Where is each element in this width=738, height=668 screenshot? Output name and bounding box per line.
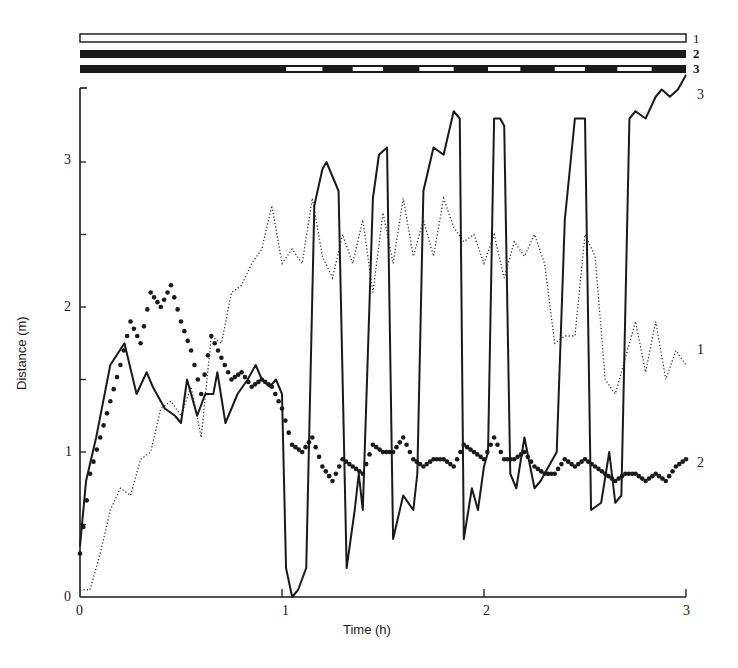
bar-label-1: 1 xyxy=(693,31,700,47)
condition-bar-3-gap xyxy=(617,67,651,71)
series-1-line xyxy=(80,198,686,590)
bar-label-3: 3 xyxy=(693,61,700,77)
bar-label-2: 2 xyxy=(693,46,700,62)
x-axis-label: Time (h) xyxy=(343,622,391,637)
condition-bar-1 xyxy=(80,34,686,42)
condition-bars xyxy=(80,34,686,73)
condition-bar-3-gap xyxy=(419,67,453,71)
y-tick-2: 2 xyxy=(64,299,71,315)
x-tick-1: 1 xyxy=(282,603,289,619)
x-tick-2: 2 xyxy=(483,603,490,619)
axes xyxy=(80,88,686,597)
condition-bar-3-gap xyxy=(286,67,322,71)
series-3-line xyxy=(80,75,686,597)
y-axis-label: Distance (m) xyxy=(14,316,29,390)
y-tick-3: 3 xyxy=(64,152,71,168)
series-label-2: 2 xyxy=(697,455,704,471)
y-tick-1: 1 xyxy=(65,444,72,460)
condition-bar-3-gap xyxy=(555,67,585,71)
series-label-1: 1 xyxy=(697,342,704,358)
series-label-3: 3 xyxy=(697,87,704,103)
x-tick-0: 0 xyxy=(76,603,83,619)
condition-bar-2 xyxy=(80,50,686,58)
condition-bar-3-gap xyxy=(488,67,520,71)
x-tick-3: 3 xyxy=(683,603,690,619)
series-group xyxy=(78,75,689,597)
y-tick-0: 0 xyxy=(64,589,71,605)
chart-canvas xyxy=(0,0,738,668)
condition-bar-3-gap xyxy=(353,67,383,71)
series-2-dots xyxy=(78,283,689,556)
